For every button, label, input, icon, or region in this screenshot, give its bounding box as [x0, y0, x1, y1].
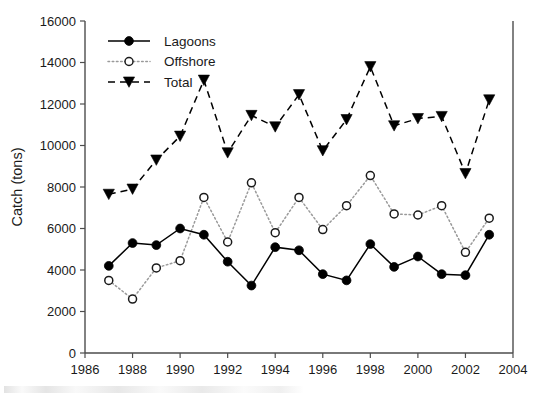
data-point-offshore: [414, 211, 422, 219]
x-axis-ticks: 1986198819901992199419961998200020022004: [71, 353, 528, 377]
legend-label-total: Total: [164, 75, 193, 90]
figure-container: 0200040006000800010000120001400016000 19…: [0, 0, 534, 394]
data-point-lagoons: [271, 243, 280, 252]
data-point-lagoons: [176, 224, 185, 233]
x-tick-label: 1998: [356, 362, 385, 377]
series-lagoons: [104, 224, 493, 290]
data-point-total: [151, 155, 162, 165]
data-point-total: [341, 115, 352, 125]
data-point-offshore: [224, 238, 232, 246]
legend-item-total[interactable]: Total: [108, 75, 193, 90]
cropped-caption-artifact: [4, 386, 304, 393]
data-point-lagoons: [295, 246, 304, 255]
y-tick-label: 16000: [40, 14, 76, 29]
data-point-total: [389, 121, 400, 131]
data-point-offshore: [438, 202, 446, 210]
x-tick-label: 2004: [499, 362, 528, 377]
x-tick-label: 1994: [261, 362, 290, 377]
data-point-total: [365, 62, 376, 72]
x-tick-label: 2002: [451, 362, 480, 377]
data-point-offshore: [319, 226, 327, 234]
data-point-total: [103, 189, 114, 199]
y-tick-label: 0: [69, 346, 76, 361]
data-point-total: [436, 111, 447, 121]
data-point-lagoons: [342, 276, 351, 285]
data-point-offshore: [247, 179, 255, 187]
x-tick-label: 1996: [308, 362, 337, 377]
data-point-offshore: [152, 264, 160, 272]
x-tick-label: 1986: [71, 362, 100, 377]
data-point-lagoons: [247, 281, 256, 290]
data-point-lagoons: [390, 262, 399, 271]
y-tick-label: 2000: [47, 304, 76, 319]
series-offshore: [105, 172, 493, 303]
y-axis-ticks: 0200040006000800010000120001400016000: [40, 14, 85, 361]
catch-line-chart: 0200040006000800010000120001400016000 19…: [0, 0, 534, 394]
data-point-lagoons: [485, 230, 494, 239]
data-point-total: [293, 90, 304, 100]
legend-item-lagoons[interactable]: Lagoons: [108, 34, 216, 49]
data-point-total: [127, 184, 138, 194]
data-point-offshore: [129, 295, 137, 303]
y-tick-label: 8000: [47, 180, 76, 195]
series-layer: [103, 62, 495, 303]
legend-marker-offshore: [125, 58, 133, 66]
series-total: [103, 62, 495, 200]
series-line-lagoons: [109, 229, 489, 286]
legend-label-offshore: Offshore: [164, 54, 216, 69]
data-point-offshore: [390, 210, 398, 218]
data-point-total: [246, 110, 257, 120]
data-point-lagoons: [152, 241, 161, 250]
y-tick-label: 10000: [40, 138, 76, 153]
y-tick-label: 4000: [47, 263, 76, 278]
data-point-total: [484, 95, 495, 105]
x-tick-label: 1990: [166, 362, 195, 377]
data-point-offshore: [485, 214, 493, 222]
data-point-lagoons: [413, 252, 422, 261]
y-tick-label: 12000: [40, 97, 76, 112]
data-point-lagoons: [461, 271, 470, 280]
chart-axes: [85, 21, 513, 353]
data-point-lagoons: [437, 270, 446, 279]
data-point-offshore: [200, 193, 208, 201]
data-point-lagoons: [223, 257, 232, 266]
x-tick-label: 1992: [213, 362, 242, 377]
data-point-total: [317, 146, 328, 156]
data-point-total: [270, 122, 281, 132]
data-point-lagoons: [104, 261, 113, 270]
data-point-offshore: [343, 202, 351, 210]
y-tick-label: 6000: [47, 221, 76, 236]
legend-item-offshore[interactable]: Offshore: [108, 54, 216, 69]
legend-label-lagoons: Lagoons: [164, 34, 216, 49]
data-point-lagoons: [318, 270, 327, 279]
data-point-offshore: [105, 276, 113, 284]
data-point-offshore: [295, 193, 303, 201]
data-point-total: [198, 75, 209, 85]
x-tick-label: 1988: [118, 362, 147, 377]
data-point-offshore: [176, 257, 184, 265]
data-point-lagoons: [366, 240, 375, 249]
data-point-offshore: [366, 172, 374, 180]
data-point-lagoons: [128, 239, 137, 248]
data-point-lagoons: [199, 230, 208, 239]
x-tick-label: 2000: [403, 362, 432, 377]
y-tick-label: 14000: [40, 55, 76, 70]
data-point-total: [460, 168, 471, 178]
data-point-offshore: [271, 229, 279, 237]
y-axis-title: Catch (tons): [9, 148, 25, 227]
legend-marker-lagoons: [125, 37, 134, 46]
chart-legend: LagoonsOffshoreTotal: [108, 34, 216, 90]
data-point-offshore: [461, 248, 469, 256]
data-point-total: [222, 148, 233, 158]
